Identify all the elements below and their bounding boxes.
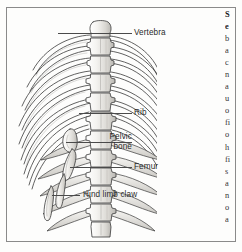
body-text-line: a bbox=[225, 178, 242, 190]
label-femur: Femur bbox=[134, 162, 158, 172]
leader-line-rib bbox=[79, 113, 132, 114]
leader-line-vertebra bbox=[58, 33, 132, 34]
body-text-line: fi bbox=[225, 117, 242, 129]
label-vertebra: Vertebra bbox=[134, 28, 166, 38]
skeleton-illustration bbox=[7, 8, 157, 241]
leader-line-femur bbox=[70, 167, 132, 168]
body-text-line: c bbox=[225, 57, 242, 69]
label-rib: Rib bbox=[134, 108, 147, 118]
body-text-line: a bbox=[225, 81, 242, 93]
body-text-line: o bbox=[225, 202, 242, 214]
body-text-line: e bbox=[225, 21, 242, 33]
body-text-line: a bbox=[225, 45, 242, 57]
body-text-line: s bbox=[225, 166, 242, 178]
label-hind-limb-claw: Hind limb claw bbox=[83, 190, 137, 200]
body-text-line: fi bbox=[225, 154, 242, 166]
document-page: Vertebra Rib Pelvic bone Femur Hind limb… bbox=[0, 0, 242, 252]
label-pelvic-bone-line1: Pelvic bbox=[96, 132, 132, 142]
body-text-line: b bbox=[225, 33, 242, 45]
body-text-line: o bbox=[225, 129, 242, 141]
leader-line-hind-limb-claw bbox=[52, 195, 80, 196]
label-pelvic-bone-line2: bone bbox=[96, 142, 132, 152]
anatomical-figure bbox=[7, 8, 157, 241]
body-text-column: Sebacnauofiohfisanoa bbox=[225, 9, 242, 240]
body-text-line: a bbox=[225, 214, 242, 226]
body-text-line: n bbox=[225, 69, 242, 81]
body-text-line: o bbox=[225, 105, 242, 117]
body-text-line: h bbox=[225, 142, 242, 154]
body-text-line: S bbox=[225, 9, 242, 21]
body-text-line: n bbox=[225, 190, 242, 202]
body-text-line: u bbox=[225, 93, 242, 105]
